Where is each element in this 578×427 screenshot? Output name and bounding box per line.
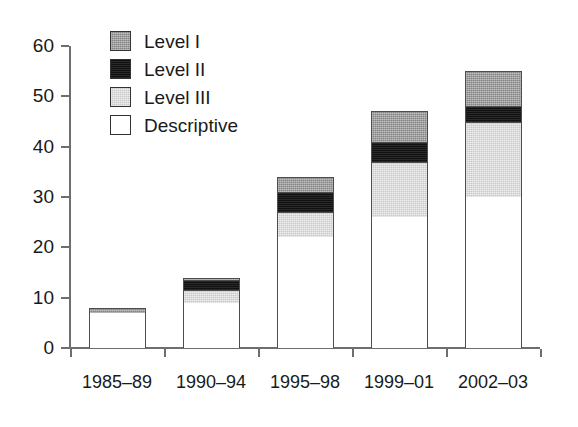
bar-1-segment-level-1 [183,278,240,281]
y-tick-20 [61,246,69,248]
y-tick-10 [61,297,69,299]
bar-2 [277,177,334,348]
x-tick-label-3: 1999–01 [364,372,434,393]
bar-2-segment-level-2 [277,192,334,212]
x-tick-label-2: 1995–98 [270,372,340,393]
y-tick-30 [61,196,69,198]
bar-4-segment-descriptive [465,197,522,348]
bar-2-segment-level-3 [277,212,334,237]
bar-0 [89,308,146,348]
bar-3 [371,111,428,348]
x-tick-end [540,349,542,357]
x-tick-1 [164,349,166,357]
bar-4-segment-level-2 [465,106,522,121]
bar-3-segment-level-3 [371,162,428,217]
bar-0-segment-level-1 [89,308,146,313]
bar-2-segment-level-1 [277,177,334,192]
x-tick-0 [70,349,72,357]
x-tick-4 [446,349,448,357]
stacked-bar-chart: Level I Level II Level III Descriptive 0… [0,0,578,427]
x-tick-label-0: 1985–89 [82,372,152,393]
x-tick-2 [258,349,260,357]
x-tick-label-1: 1990–94 [176,372,246,393]
bar-1 [183,278,240,348]
plot-area [70,46,540,348]
x-tick-3 [352,349,354,357]
bar-1-segment-level-2 [183,280,240,290]
bar-2-segment-descriptive [277,237,334,348]
y-tick-label-0: 0 [8,338,54,357]
y-tick-40 [61,146,69,148]
y-tick-label-60: 60 [8,36,54,55]
bar-4-segment-level-1 [465,71,522,106]
x-tick-label-4: 2002–03 [458,372,528,393]
bar-1-segment-level-3 [183,290,240,303]
y-tick-0 [61,347,69,349]
bar-0-segment-descriptive [89,313,146,348]
bar-4-segment-level-3 [465,122,522,198]
y-tick-60 [61,45,69,47]
y-tick-label-30: 30 [8,187,54,206]
bar-4 [465,71,522,348]
y-tick-label-50: 50 [8,86,54,105]
bar-3-segment-descriptive [371,217,428,348]
y-tick-label-10: 10 [8,288,54,307]
y-tick-50 [61,95,69,97]
bar-3-segment-level-2 [371,142,428,162]
bar-1-segment-descriptive [183,303,240,348]
y-tick-label-20: 20 [8,237,54,256]
y-tick-label-40: 40 [8,137,54,156]
bar-3-segment-level-1 [371,111,428,141]
